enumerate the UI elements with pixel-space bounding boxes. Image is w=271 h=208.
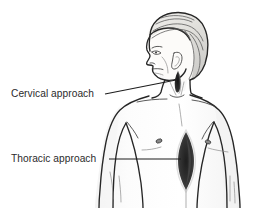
pupil	[155, 52, 157, 54]
medical-illustration-figure: Cervical approach Thoracic approach	[0, 0, 271, 208]
cervical-approach-label: Cervical approach	[11, 88, 94, 99]
anatomy-diagram-svg: Cervical approach Thoracic approach	[0, 0, 271, 208]
thoracic-approach-label: Thoracic approach	[11, 153, 96, 164]
